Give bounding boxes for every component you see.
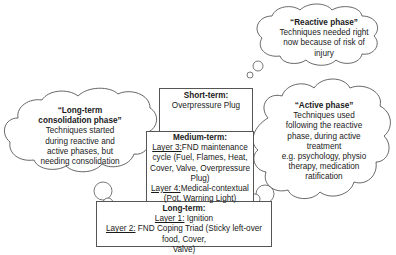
short-term-heading: Short-term:	[159, 91, 253, 101]
layer-3-label: Layer 3:	[152, 143, 182, 152]
active-phase-line: treatment	[272, 142, 376, 152]
layer-2-label: Layer 2:	[106, 224, 136, 233]
layer-3-text: cycle (Fuel, Flames, Heat,	[146, 153, 254, 163]
consolidation-phase-title: “Long-term	[30, 106, 130, 116]
layer-1-text: Ignition	[184, 214, 213, 223]
reactive-phase-line: Techniques needed right	[276, 28, 372, 38]
active-phase-text: “Active phase” Techniques used following…	[272, 101, 376, 183]
layer-1-label: Layer 1:	[155, 214, 185, 223]
medium-term-heading: Medium-term:	[146, 133, 254, 143]
layer-4-text: (Pot, Warning Light)	[146, 194, 254, 204]
active-phase-line: ratification	[272, 172, 376, 182]
long-term-heading: Long-term:	[96, 204, 272, 214]
consolidation-phase-line: during reactive and	[30, 137, 130, 147]
reactive-phase-text: “Reactive phase” Techniques needed right…	[276, 18, 372, 59]
layer-4-label: Layer 4:	[151, 184, 181, 193]
layer-4-text: Medical-contextual	[181, 184, 249, 193]
active-phase-line: Techniques used	[272, 111, 376, 121]
active-phase-line: e.g. psychology, physio	[272, 152, 376, 162]
layer-2-text: Valve)	[96, 245, 272, 255]
reactive-thought-bubble-small	[247, 72, 253, 78]
consolidation-phase-line: needing consolidation	[30, 157, 130, 167]
short-term-text: Short-term: Overpressure Plug	[159, 91, 253, 111]
reactive-thought-bubble-large	[253, 61, 263, 71]
consolidation-phase-text: “Long-term consolidation phase” Techniqu…	[30, 106, 130, 167]
layer-3-text: Plug)	[146, 174, 254, 184]
consolidation-phase-line: active phases, but	[30, 147, 130, 157]
layer-3-text: FND maintenance	[182, 143, 248, 152]
consolidation-phase-line: Techniques started	[30, 126, 130, 136]
medium-term-text: Medium-term: Layer 3:FND maintenance cyc…	[146, 133, 254, 204]
active-phase-line: phase, during active	[272, 132, 376, 142]
active-phase-title: “Active phase”	[272, 101, 376, 111]
consolidation-thought-bubble-large	[94, 182, 112, 200]
short-term-item: Overpressure Plug	[159, 101, 253, 111]
reactive-phase-line: now because of risk of	[276, 38, 372, 48]
layer-2-text: FND Coping Triad (Sticky left-over food,…	[136, 224, 263, 243]
reactive-phase-line: injury	[276, 49, 372, 59]
reactive-phase-title: “Reactive phase”	[276, 18, 372, 28]
long-term-text: Long-term: Layer 1: Ignition Layer 2: FN…	[96, 204, 272, 255]
layer-3-text: Cover, Valve, Overpressure	[146, 164, 254, 174]
active-phase-line: following the reactive	[272, 121, 376, 131]
consolidation-phase-title: consolidation phase”	[30, 116, 130, 126]
active-phase-line: therapy, medication	[272, 162, 376, 172]
